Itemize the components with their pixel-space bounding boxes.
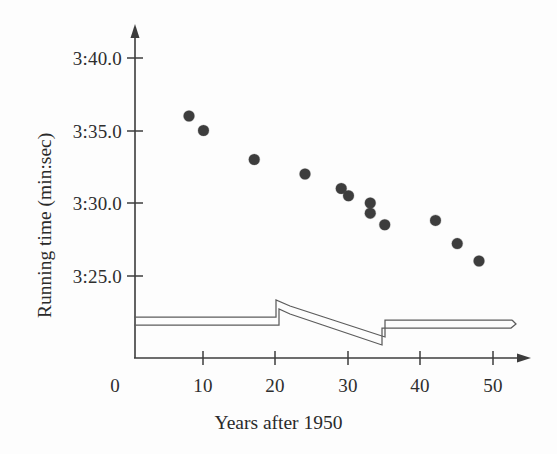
- y-axis-arrow-icon: [131, 24, 140, 38]
- data-point: [452, 238, 463, 249]
- data-point: [300, 169, 311, 180]
- x-axis: [134, 351, 531, 365]
- data-point: [379, 219, 390, 230]
- data-point: [430, 215, 441, 226]
- x-tick-label-20: 20: [250, 375, 300, 397]
- data-point: [365, 198, 376, 209]
- data-point: [365, 208, 376, 219]
- x-tick-label-0: 0: [90, 375, 140, 397]
- y-axis-title: Running time (min:sec): [34, 133, 56, 318]
- x-tick-label-50: 50: [468, 375, 518, 397]
- data-points-layer: [184, 111, 485, 267]
- x-tick-label-10: 10: [178, 375, 228, 397]
- data-point: [474, 256, 485, 267]
- x-axis-arrow-icon: [517, 354, 531, 363]
- data-point: [184, 111, 195, 122]
- y-tick-label-340: 3:40.0: [34, 48, 122, 70]
- x-tick-label-30: 30: [323, 375, 373, 397]
- data-point: [249, 154, 260, 165]
- y-axis: [127, 24, 143, 358]
- data-point: [343, 190, 354, 201]
- x-axis-title: Years after 1950: [0, 412, 557, 434]
- x-tick-label-40: 40: [395, 375, 445, 397]
- chart-figure: 3:40.0 3:35.0 3:30.0 3:25.0 0 10 20 30 4…: [0, 0, 557, 454]
- scan-artifact-ribbon: [134, 300, 516, 345]
- data-point: [198, 125, 209, 136]
